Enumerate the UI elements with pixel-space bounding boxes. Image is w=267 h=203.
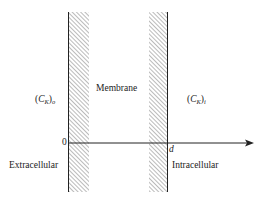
membrane-diagram: (CK)o Membrane (CK)i 0 d Extracellular I… (0, 0, 267, 203)
right-membrane-boundary (149, 12, 168, 192)
membrane-label: Membrane (96, 84, 137, 94)
intracellular-concentration-label: (CK)i (187, 95, 206, 106)
origin-label: 0 (62, 138, 67, 148)
left-membrane-boundary (68, 12, 89, 192)
intracellular-label: Intracellular (172, 161, 218, 171)
extracellular-label: Extracellular (9, 161, 58, 171)
extracellular-concentration-label: (CK)o (35, 95, 55, 106)
thickness-d-label: d (169, 145, 174, 155)
